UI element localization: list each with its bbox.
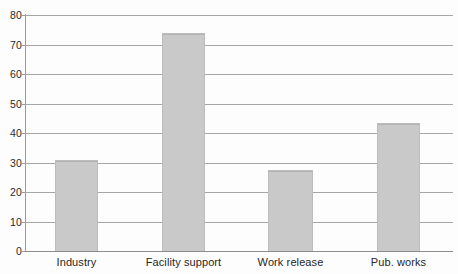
y-axis-tick-labels: 01020304050607080 [0,15,22,251]
gridline-60 [25,74,453,75]
bar-work-release [268,170,313,251]
x-label-industry: Industry [17,255,137,269]
tick-mark-10 [21,222,25,223]
tick-mark-30 [21,163,25,164]
x-label-work-release: Work release [231,255,351,269]
tick-mark-70 [21,45,25,46]
bar-facility-support [162,33,205,251]
x-axis-category-labels: IndustryFacility supportWork releasePub.… [25,255,453,274]
y-tick-label-70: 70 [0,40,22,51]
bar-industry [55,160,98,251]
plot-area [25,15,453,251]
tick-mark-0 [21,251,25,252]
x-label-pub-works: Pub. works [339,255,458,269]
tick-mark-50 [21,104,25,105]
y-tick-label-40: 40 [0,128,22,139]
bar-chart: 01020304050607080 IndustryFacility suppo… [0,0,458,274]
y-tick-label-20: 20 [0,187,22,198]
tick-mark-60 [21,74,25,75]
tick-mark-20 [21,192,25,193]
y-tick-label-30: 30 [0,158,22,169]
y-tick-label-60: 60 [0,69,22,80]
x-label-facility-support: Facility support [124,255,244,269]
tick-mark-80 [21,15,25,16]
gridline-50 [25,104,453,105]
y-tick-label-50: 50 [0,99,22,110]
bar-pub-works [377,123,420,251]
y-tick-label-80: 80 [0,10,22,21]
tick-mark-40 [21,133,25,134]
gridline-70 [25,45,453,46]
gridline-0 [25,251,453,252]
gridline-80 [25,15,453,16]
y-tick-label-10: 10 [0,217,22,228]
